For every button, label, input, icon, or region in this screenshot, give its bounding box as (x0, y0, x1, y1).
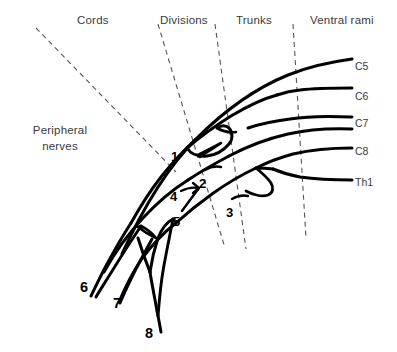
number-label-6: 6 (80, 279, 88, 295)
label-cords: Cords (77, 14, 109, 26)
label-peripheral-nerves: Peripheral nerves (14, 122, 106, 154)
number-label-3: 3 (226, 205, 233, 220)
label-peripheral-nerves-line1: Peripheral (14, 122, 106, 138)
number-label-8: 8 (145, 325, 153, 341)
brachial-plexus-figure: Cords Divisions Trunks Ventral rami Peri… (0, 0, 397, 352)
number-label-7: 7 (113, 295, 121, 311)
divider-cords-divisions-line (158, 24, 225, 248)
number-label-2: 2 (199, 176, 206, 191)
label-segment-th1: Th1 (355, 176, 373, 188)
label-trunks: Trunks (236, 14, 272, 26)
cord-convergence-loop (138, 226, 156, 238)
posterior-division-hook-3 (232, 196, 248, 199)
peripheral-nerve-6-second-fascicle (96, 226, 141, 297)
nerve-strokes (91, 59, 352, 332)
number-label-1: 1 (171, 149, 178, 164)
number-label-4: 4 (170, 189, 177, 204)
peripheral-nerve-6 (91, 223, 131, 296)
label-segment-c7: C7 (355, 117, 368, 129)
label-segment-c5: C5 (355, 60, 368, 72)
c7-root-upper (248, 116, 352, 128)
label-segment-c6: C6 (355, 90, 368, 102)
upper-trunk-posterior-division (217, 128, 236, 132)
c8-root (256, 148, 352, 168)
label-ventral-rami: Ventral rami (310, 14, 374, 26)
label-divisions: Divisions (160, 14, 208, 26)
label-segment-c8: C8 (355, 145, 368, 157)
c7-middle-trunk (229, 129, 352, 156)
c6-root (277, 88, 352, 95)
th1-root (273, 169, 352, 180)
label-peripheral-nerves-line2: nerves (14, 138, 106, 154)
number-label-5: 5 (173, 214, 180, 229)
